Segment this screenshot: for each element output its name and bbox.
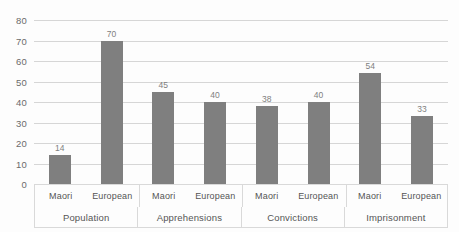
cat-label-convictions-european: European (293, 185, 345, 207)
y-axis-tick: 70 (16, 35, 27, 46)
group-label-convictions: Convictions (242, 207, 345, 228)
bar-slot: 40 (189, 20, 241, 184)
bar-value-label: 14 (55, 143, 65, 153)
bar-value-label: 40 (210, 90, 220, 100)
group-label-imprisonment: Imprisonment (345, 207, 447, 228)
bar-value-label: 33 (417, 104, 427, 114)
cat-label-apprehensions-european: European (190, 185, 242, 207)
cat-label-convictions-maori: Maori (241, 185, 293, 207)
group-divider (242, 185, 243, 207)
bar-convictions-maori[interactable] (256, 106, 278, 184)
group-label-apprehensions: Apprehensions (138, 207, 241, 228)
bar-value-label: 40 (314, 90, 324, 100)
plot-area: 14 70 45 40 38 40 (34, 20, 448, 184)
bars-layer: 14 70 45 40 38 40 (34, 20, 448, 184)
category-label-table: Maori European Maori European Maori Euro… (34, 184, 448, 228)
bar-slot: 70 (86, 20, 138, 184)
bar-value-label: 38 (262, 94, 272, 104)
bar-slot: 38 (241, 20, 293, 184)
y-axis-tick: 60 (16, 56, 27, 67)
y-axis-tick: 10 (16, 158, 27, 169)
category-row-subgroups: Maori European Maori European Maori Euro… (35, 185, 447, 207)
bar-slot: 33 (396, 20, 448, 184)
bar-slot: 40 (293, 20, 345, 184)
bar-value-label: 70 (107, 29, 117, 39)
bar-chart: 80 70 60 50 40 30 20 10 0 14 70 (0, 0, 459, 232)
bar-imprisonment-maori[interactable] (359, 73, 381, 184)
bar-value-label: 45 (158, 80, 168, 90)
bar-apprehensions-european[interactable] (204, 102, 226, 184)
group-divider (346, 185, 347, 207)
y-axis-tick: 50 (16, 76, 27, 87)
bar-convictions-european[interactable] (308, 102, 330, 184)
category-row-groups: Population Apprehensions Convictions Imp… (35, 207, 447, 228)
cat-label-imprisonment-european: European (396, 185, 448, 207)
y-axis-tick: 20 (16, 138, 27, 149)
group-label-population: Population (35, 207, 138, 228)
group-divider (139, 185, 140, 207)
bar-slot: 54 (345, 20, 397, 184)
cat-label-apprehensions-maori: Maori (138, 185, 190, 207)
y-axis-tick: 40 (16, 97, 27, 108)
bar-population-european[interactable] (101, 41, 123, 185)
y-axis-tick: 80 (16, 15, 27, 26)
y-axis-tick: 30 (16, 117, 27, 128)
cat-label-population-maori: Maori (35, 185, 87, 207)
bar-population-maori[interactable] (49, 155, 71, 184)
cat-label-imprisonment-maori: Maori (344, 185, 396, 207)
cat-label-population-european: European (87, 185, 139, 207)
bar-apprehensions-maori[interactable] (152, 92, 174, 184)
bar-slot: 14 (34, 20, 86, 184)
y-axis-tick: 0 (22, 179, 27, 190)
bar-slot: 45 (138, 20, 190, 184)
bar-imprisonment-european[interactable] (411, 116, 433, 184)
y-axis: 80 70 60 50 40 30 20 10 0 (0, 0, 33, 232)
bar-value-label: 54 (365, 61, 375, 71)
